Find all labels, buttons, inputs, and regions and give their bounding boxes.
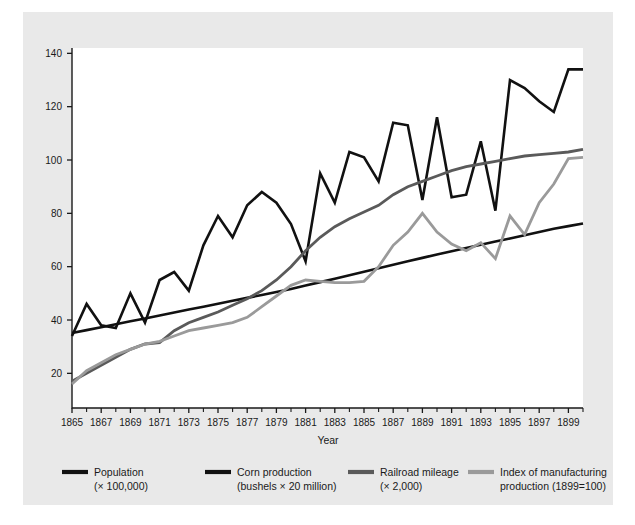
x-tick-label: 1869 xyxy=(119,417,142,428)
legend-sublabel: (× 100,000) xyxy=(94,480,148,492)
legend-sublabel: production (1899=100) xyxy=(500,480,606,492)
y-tick-label: 120 xyxy=(45,101,62,112)
x-tick-label: 1875 xyxy=(207,417,230,428)
x-tick-label: 1883 xyxy=(324,417,347,428)
line-chart: 20406080100120140 1865186718691871187318… xyxy=(0,0,635,525)
x-axis-title: Year xyxy=(317,434,339,446)
legend-label: Railroad mileage xyxy=(380,466,459,478)
x-tick-label: 1871 xyxy=(148,417,171,428)
x-tick-label: 1865 xyxy=(61,417,84,428)
chart-legend: Population(× 100,000)Corn production(bus… xyxy=(62,466,607,492)
x-tick-label: 1893 xyxy=(470,417,493,428)
x-tick-label: 1867 xyxy=(90,417,113,428)
x-tick-label: 1873 xyxy=(178,417,201,428)
x-tick-label: 1877 xyxy=(236,417,259,428)
x-tick-label: 1887 xyxy=(382,417,405,428)
y-tick-label: 80 xyxy=(51,208,63,219)
legend-label: Corn production xyxy=(237,466,312,478)
x-tick-label: 1889 xyxy=(411,417,434,428)
y-tick-label: 100 xyxy=(45,155,62,166)
chart-figure: 20406080100120140 1865186718691871187318… xyxy=(0,0,635,525)
x-tick-label: 1879 xyxy=(265,417,288,428)
y-tick-label: 20 xyxy=(51,368,63,379)
x-tick-label: 1885 xyxy=(353,417,376,428)
x-tick-label: 1895 xyxy=(499,417,522,428)
y-tick-label: 40 xyxy=(51,315,63,326)
legend-sublabel: (bushels × 20 million) xyxy=(237,480,337,492)
x-tick-label: 1899 xyxy=(557,417,580,428)
y-tick-label: 140 xyxy=(45,48,62,59)
x-tick-label: 1897 xyxy=(528,417,551,428)
x-axis-ticks: 1865186718691871187318751877187918811883… xyxy=(61,408,583,428)
legend-label: Index of manufacturing xyxy=(500,466,607,478)
legend-label: Population xyxy=(94,466,144,478)
y-axis-ticks: 20406080100120140 xyxy=(45,48,72,379)
x-tick-label: 1881 xyxy=(294,417,317,428)
legend-sublabel: (× 2,000) xyxy=(380,480,422,492)
x-tick-label: 1891 xyxy=(440,417,463,428)
y-tick-label: 60 xyxy=(51,261,63,272)
